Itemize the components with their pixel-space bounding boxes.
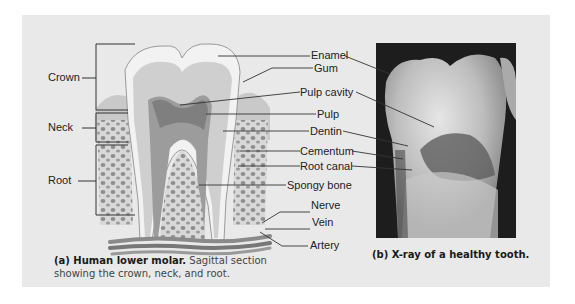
label-neck: Neck [48,121,73,134]
caption-a: (a) Human lower molar. Sagittal section … [54,254,267,280]
xray-image [376,43,516,238]
caption-a-line2: showing the crown, neck, and root. [54,268,230,279]
caption-b-title: (b) X-ray of a healthy tooth. [372,249,529,260]
caption-a-title: (a) Human lower molar. [54,255,186,266]
label-enamel: Enamel [311,49,348,62]
label-root-canal: Root canal [300,160,353,173]
label-vein: Vein [312,216,333,229]
label-dentin: Dentin [310,125,342,138]
label-artery: Artery [310,239,339,252]
caption-a-line1: Sagittal section [186,255,267,266]
vessels [110,236,270,254]
label-gum: Gum [314,62,338,75]
label-pulp: Pulp [317,108,339,121]
label-cementum: Cementum [300,145,354,158]
label-root: Root [48,174,71,187]
label-spongy-bone: Spongy bone [287,179,352,192]
caption-b: (b) X-ray of a healthy tooth. [372,248,529,261]
label-pulp-cavity: Pulp cavity [300,86,353,99]
label-crown: Crown [48,71,80,84]
label-nerve: Nerve [311,199,340,212]
